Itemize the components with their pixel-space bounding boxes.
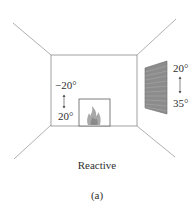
diagram-title: Reactive <box>0 160 194 171</box>
room-diagram <box>0 0 194 214</box>
floor-left-edge <box>14 125 51 159</box>
ceiling-left-edge <box>13 23 51 55</box>
fireplace <box>79 99 110 126</box>
ceiling-right-edge <box>137 19 176 55</box>
floor-right-edge <box>137 126 175 157</box>
window <box>145 61 167 114</box>
subfigure-label: (a) <box>0 190 194 201</box>
fireplace-temp-bottom: 20° <box>58 111 73 122</box>
window-temp-arrow <box>179 77 182 94</box>
window-temp-top: 20° <box>173 63 188 74</box>
window-temp-bottom: 35° <box>173 98 188 109</box>
fireplace-temp-arrow <box>63 95 66 109</box>
fireplace-temp-top: −20° <box>55 80 77 91</box>
